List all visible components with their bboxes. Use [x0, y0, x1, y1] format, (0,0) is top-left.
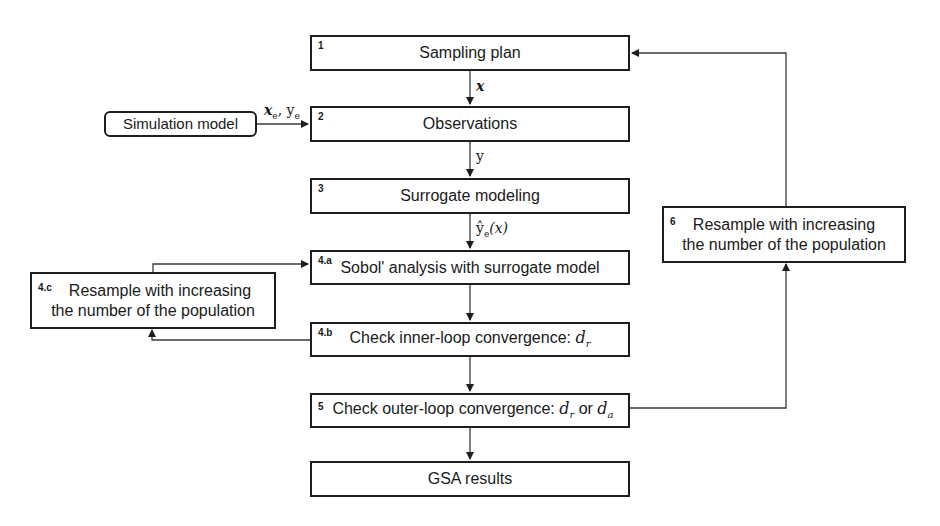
resample-outer-box: 6 Resample with increasing the number of…: [662, 206, 906, 263]
box-label: Surrogate modeling: [400, 186, 540, 206]
edge-label-xe-ye: xe, ye: [264, 102, 300, 121]
edge-label-yhat: ŷe(x): [476, 220, 508, 239]
step-number: 4.a: [318, 255, 332, 268]
box-label: Simulation model: [123, 115, 238, 134]
step-number: 6: [670, 216, 676, 229]
step-number: 1: [318, 40, 324, 53]
edge-label-x: x: [476, 78, 484, 94]
resample-inner-box: 4.c Resample with increasing the number …: [30, 272, 276, 329]
sobol-analysis-box: 4.a Sobol' analysis with surrogate model: [310, 250, 630, 285]
step-number: 2: [318, 111, 324, 124]
step-number: 4.b: [318, 327, 332, 340]
box-label: Resample with increasing the number of t…: [682, 215, 886, 255]
gsa-results-box: GSA results: [310, 461, 630, 497]
outer-loop-convergence-box: 5 Check outer-loop convergence: dr or da: [310, 393, 630, 428]
box-label: Observations: [423, 114, 517, 134]
inner-loop-convergence-box: 4.b Check inner-loop convergence: dr: [310, 322, 630, 357]
sampling-plan-box: 1 Sampling plan: [310, 35, 630, 71]
step-number: 4.c: [38, 282, 52, 295]
box-label: GSA results: [428, 469, 512, 489]
box-label: Sobol' analysis with surrogate model: [340, 258, 599, 278]
step-number: 5: [318, 401, 324, 414]
box-label: Check outer-loop convergence: dr or da: [326, 399, 613, 422]
box-label: Check inner-loop convergence: dr: [350, 328, 591, 351]
observations-box: 2 Observations: [310, 106, 630, 142]
surrogate-modeling-box: 3 Surrogate modeling: [310, 178, 630, 214]
box-label: Resample with increasing the number of t…: [51, 281, 255, 321]
edge-label-y: y: [476, 148, 484, 164]
simulation-model-box: Simulation model: [104, 111, 257, 137]
box-label: Sampling plan: [419, 43, 520, 63]
step-number: 3: [318, 183, 324, 196]
